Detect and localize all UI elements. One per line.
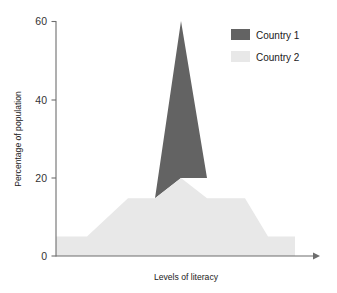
x-axis-arrowhead [313,252,320,259]
y-tick-label-60: 60 [35,15,47,27]
series-area-country-2 [56,178,295,256]
y-tick-label-0: 0 [41,250,47,262]
legend-item-country-1[interactable]: Country 1 [231,29,300,41]
area-chart-svg: 0 20 40 60 Percentage of population Leve… [0,0,337,293]
legend-item-country-2[interactable]: Country 2 [231,51,300,63]
legend: Country 1 Country 2 [231,29,300,63]
y-tick-label-40: 40 [35,94,47,106]
x-axis-title: Levels of literacy [154,272,219,282]
y-tick-label-20: 20 [35,172,47,184]
y-tick-labels: 0 20 40 60 [35,15,47,261]
chart-container: 0 20 40 60 Percentage of population Leve… [0,0,337,293]
legend-label-country-1: Country 1 [256,30,300,41]
legend-label-country-2: Country 2 [256,52,300,63]
legend-swatch-country-1 [231,29,250,40]
legend-swatch-country-2 [231,51,250,62]
y-axis-title: Percentage of population [13,91,23,187]
